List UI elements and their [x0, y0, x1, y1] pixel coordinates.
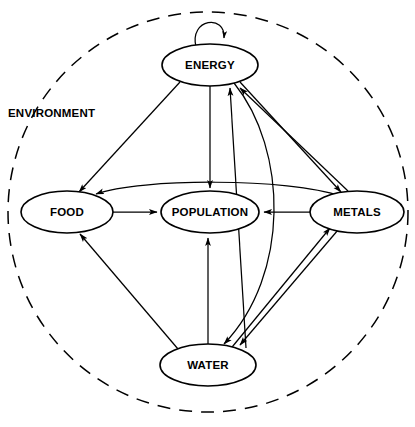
- node-metals-label: METALS: [333, 206, 381, 218]
- node-water[interactable]: WATER: [160, 344, 256, 386]
- node-metals[interactable]: METALS: [310, 191, 404, 233]
- environment-label: ENVIRONMENT: [8, 107, 95, 119]
- node-water-label: WATER: [187, 359, 229, 371]
- edge-metals-water: [240, 230, 338, 345]
- node-food[interactable]: FOOD: [21, 191, 113, 233]
- resource-system-diagram: ENERGY FOOD POPULATION METALS WATER ENVI…: [0, 0, 415, 427]
- node-population-label: POPULATION: [172, 206, 249, 218]
- edge-water-metals: [228, 228, 330, 352]
- diagram-canvas: ENERGY FOOD POPULATION METALS WATER ENVI…: [0, 0, 415, 427]
- node-food-label: FOOD: [50, 206, 84, 218]
- edge-water-food: [80, 234, 178, 349]
- node-population[interactable]: POPULATION: [161, 191, 259, 233]
- edge-metals-energy: [240, 88, 348, 191]
- node-energy-label: ENERGY: [185, 59, 235, 71]
- node-energy[interactable]: ENERGY: [162, 44, 258, 86]
- edge-energy-food: [79, 82, 180, 192]
